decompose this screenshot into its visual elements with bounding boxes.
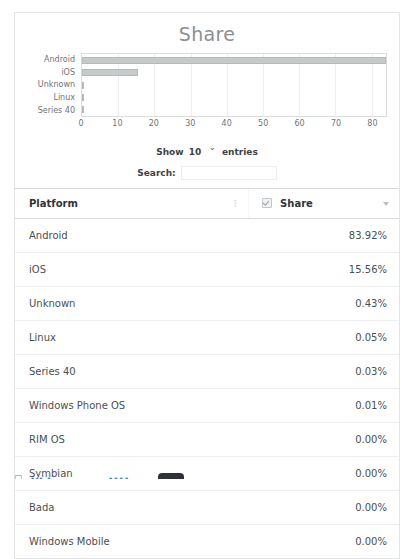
- table-header-row: Platform ⋮ Share: [15, 189, 399, 219]
- table-body: Android83.92%iOS15.56%Unknown0.43%Linux0…: [15, 219, 399, 559]
- table-row[interactable]: Bada0.00%: [15, 491, 399, 525]
- cell-share: 15.56%: [248, 253, 399, 287]
- chart-bars: [82, 54, 386, 116]
- length-select[interactable]: 10: [187, 147, 204, 157]
- chart-y-tick-label: iOS: [19, 66, 79, 79]
- chart-y-tick-label: Android: [19, 53, 79, 66]
- footer-pill[interactable]: [158, 473, 184, 479]
- cell-platform: iOS: [15, 253, 248, 287]
- cell-platform: Unknown: [15, 287, 248, 321]
- chart-title: Share: [15, 13, 399, 53]
- table-length-control: Show 10 ˅ entries: [15, 141, 399, 159]
- chart-x-tick-label: 20: [149, 119, 159, 128]
- cell-share: 0.01%: [248, 389, 399, 423]
- chart-bar-row: [82, 66, 386, 78]
- chevron-down-icon[interactable]: ˅: [205, 147, 221, 157]
- column-header-platform-label: Platform: [29, 198, 78, 209]
- cell-platform: Android: [15, 219, 248, 253]
- chart-bar-row: [82, 79, 386, 91]
- footer-fragment[interactable]: • • •: [30, 474, 52, 479]
- cell-share: 0.03%: [248, 355, 399, 389]
- chart-bar-row: [82, 91, 386, 103]
- column-header-platform[interactable]: Platform ⋮: [15, 189, 248, 219]
- table-head: Platform ⋮ Share: [15, 189, 399, 219]
- chart-x-tick-label: 0: [78, 119, 83, 128]
- chart-x-tick-label: 60: [294, 119, 304, 128]
- chart-y-tick-label: Linux: [19, 91, 79, 104]
- chart-x-axis-labels: 01020304050607080: [81, 119, 387, 135]
- cell-share: 0.00%: [248, 525, 399, 559]
- search-input[interactable]: [181, 166, 277, 180]
- chart-bar: [82, 106, 84, 113]
- length-suffix-label: entries: [222, 147, 258, 157]
- platform-share-table: Platform ⋮ Share Android83.92%iOS15.56%U…: [15, 188, 399, 558]
- table-row[interactable]: Windows Mobile0.00%: [15, 525, 399, 559]
- chart-x-tick-label: 70: [331, 119, 341, 128]
- cell-share: 0.43%: [248, 287, 399, 321]
- chart-bar: [82, 57, 386, 64]
- cell-platform: Windows Mobile: [15, 525, 248, 559]
- table-row[interactable]: Unknown0.43%: [15, 287, 399, 321]
- clipped-footer: ☐ • • • ••••: [0, 470, 416, 479]
- cell-share: 83.92%: [248, 219, 399, 253]
- chart-bar: [82, 82, 84, 89]
- chart-y-axis-labels: AndroidiOSUnknownLinuxSeries 40: [19, 53, 79, 117]
- cell-platform: RIM OS: [15, 423, 248, 457]
- length-prefix-label: Show: [156, 147, 183, 157]
- table-row[interactable]: Android83.92%: [15, 219, 399, 253]
- chart-bar-row: [82, 104, 386, 116]
- footer-fragment[interactable]: ☐: [14, 474, 22, 479]
- chart-x-tick-label: 80: [367, 119, 377, 128]
- column-header-share[interactable]: Share: [248, 189, 399, 219]
- search-label: Search:: [137, 168, 180, 178]
- checkbox-icon[interactable]: [262, 198, 272, 208]
- cell-platform: Linux: [15, 321, 248, 355]
- sort-indicator-icon: ⋮: [232, 200, 240, 208]
- cell-share: 0.05%: [248, 321, 399, 355]
- cell-platform: Windows Phone OS: [15, 389, 248, 423]
- cell-share: 0.00%: [248, 491, 399, 525]
- cell-platform: Series 40: [15, 355, 248, 389]
- chart-x-tick-label: 30: [185, 119, 195, 128]
- chart-bar: [82, 94, 84, 101]
- sort-descending-icon: [383, 202, 389, 206]
- chart-bar: [82, 69, 138, 76]
- table-row[interactable]: iOS15.56%: [15, 253, 399, 287]
- column-divider: [248, 189, 249, 218]
- table-row[interactable]: Linux0.05%: [15, 321, 399, 355]
- chart-y-tick-label: Series 40: [19, 104, 79, 117]
- share-bar-chart: AndroidiOSUnknownLinuxSeries 40 01020304…: [19, 53, 387, 141]
- footer-fragment[interactable]: ••••: [108, 474, 129, 479]
- chart-x-tick-label: 10: [112, 119, 122, 128]
- table-row[interactable]: Windows Phone OS0.01%: [15, 389, 399, 423]
- table-row[interactable]: RIM OS0.00%: [15, 423, 399, 457]
- cell-share: 0.00%: [248, 423, 399, 457]
- chart-x-tick-label: 40: [222, 119, 232, 128]
- column-header-share-label: Share: [280, 198, 313, 209]
- chart-plot-area: [81, 53, 387, 117]
- chart-y-tick-label: Unknown: [19, 79, 79, 92]
- table-search-control: Search:: [15, 159, 399, 188]
- chart-x-tick-label: 50: [258, 119, 268, 128]
- chart-bar-row: [82, 54, 386, 66]
- cell-platform: Bada: [15, 491, 248, 525]
- table-row[interactable]: Series 400.03%: [15, 355, 399, 389]
